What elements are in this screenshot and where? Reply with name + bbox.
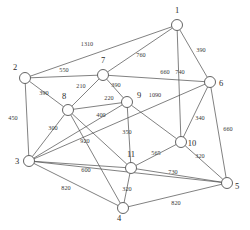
graph-node-1[interactable]: [172, 20, 183, 31]
edge-weight-label-1-2: 1310: [81, 40, 93, 47]
node-label-9: 9: [137, 90, 141, 100]
edge-weight-label-11-4: 320: [122, 185, 131, 192]
edge-weight-label-8-11: 400: [96, 111, 105, 118]
node-label-2: 2: [13, 62, 17, 72]
node-label-7: 7: [101, 55, 105, 65]
edge-weight-label-7-6: 660: [160, 68, 169, 75]
edge-weight-label-8-9: 220: [104, 94, 113, 101]
graph-node-4[interactable]: [118, 203, 129, 214]
graph-node-5[interactable]: [222, 178, 233, 189]
edge-weight-label-1-6: 390: [196, 46, 205, 53]
edge-weight-label-3-4: 820: [61, 184, 70, 191]
node-label-1: 1: [175, 5, 179, 15]
graph-node-9[interactable]: [122, 97, 133, 108]
graph-canvas: 1310760390740550390450210390660220300400…: [0, 0, 250, 230]
graph-edge-8-4: [71, 115, 121, 203]
node-label-5: 5: [235, 181, 239, 191]
graph-edge-8-9: [73, 103, 121, 110]
node-label-8: 8: [62, 91, 66, 101]
node-label-6: 6: [219, 78, 223, 88]
graph-edge-9-10: [131, 105, 176, 138]
edge-weight-label-9-11: 350: [122, 128, 131, 135]
graph-node-8[interactable]: [63, 105, 74, 116]
node-label-10: 10: [188, 138, 197, 148]
edge-weight-label-9-3: 920: [80, 137, 89, 144]
edge-weight-label-11-3: 600: [81, 166, 90, 173]
graph-node-2[interactable]: [20, 73, 31, 84]
edge-weight-label-1-7: 760: [136, 51, 145, 58]
graph-edge-9-3: [34, 105, 123, 158]
edge-weight-label-10-5: 320: [195, 152, 204, 159]
edge-weight-label-1-10: 740: [175, 68, 184, 75]
graph-edge-1-2: [30, 27, 172, 76]
graph-edge-1-7: [108, 28, 173, 72]
edge-weight-label-7-9: 390: [111, 81, 120, 88]
node-label-4: 4: [117, 213, 122, 223]
graph-edge-2-3: [25, 83, 28, 155]
graph-edge-6-10: [183, 87, 207, 137]
node-label-3: 3: [15, 156, 19, 166]
edge-weight-label-2-7: 550: [59, 66, 68, 73]
edge-labels-layer: 1310760390740550390450210390660220300400…: [8, 40, 232, 206]
graph-edge-10-5: [185, 146, 223, 180]
edge-weight-label-2-8: 390: [39, 89, 48, 96]
edge-weight-label-2-3: 450: [8, 114, 17, 121]
node-label-11: 11: [127, 149, 135, 159]
graph-node-7[interactable]: [98, 70, 109, 81]
edge-weight-label-9-10: 1090: [149, 91, 161, 98]
graph-edge-7-6: [108, 75, 204, 81]
graph-node-3[interactable]: [24, 156, 35, 167]
graph-node-10[interactable]: [176, 137, 187, 148]
edge-weight-label-11-5: 730: [168, 168, 177, 175]
graph-node-6[interactable]: [205, 77, 216, 88]
graph-edge-2-7: [31, 75, 98, 78]
edge-weight-label-7-8: 210: [76, 82, 85, 89]
edge-weight-label-6-5: 660: [223, 125, 232, 132]
graph-edge-6-5: [211, 87, 226, 177]
graph-node-11[interactable]: [126, 163, 137, 174]
graph-edge-1-10: [177, 31, 181, 137]
edge-weight-label-8-3: 300: [48, 124, 57, 131]
edge-weight-label-6-10: 340: [195, 114, 204, 121]
graph-edge-8-3: [32, 114, 64, 156]
network-graph-diagram: 1310760390740550390450210390660220300400…: [0, 0, 250, 230]
edge-weight-label-10-11: 565: [151, 149, 160, 156]
edge-weight-label-4-5: 820: [171, 199, 180, 206]
graph-edge-11-5: [136, 169, 221, 182]
